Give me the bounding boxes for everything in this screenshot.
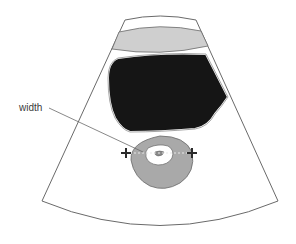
ultrasound-diagram: width — [0, 0, 296, 244]
width-label: width — [18, 102, 42, 113]
superficial-layer-band — [112, 27, 208, 53]
dark-region — [108, 54, 228, 133]
